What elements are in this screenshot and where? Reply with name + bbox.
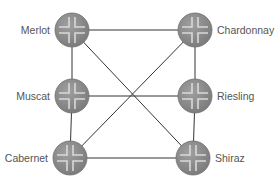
router-icon [176, 141, 210, 175]
label-shiraz: Shiraz [215, 152, 245, 164]
label-muscat: Muscat [16, 90, 50, 102]
network-diagram: Merlot Chardonnay Muscat Riesling Cabern… [0, 0, 280, 188]
router-icon [53, 141, 87, 175]
router-icon [178, 13, 212, 47]
label-riesling: Riesling [217, 90, 254, 102]
router-icon [55, 79, 89, 113]
router-icon [55, 13, 89, 47]
label-cabernet: Cabernet [5, 152, 48, 164]
label-merlot: Merlot [21, 24, 50, 36]
label-chardonnay: Chardonnay [217, 24, 274, 36]
router-icon [178, 79, 212, 113]
